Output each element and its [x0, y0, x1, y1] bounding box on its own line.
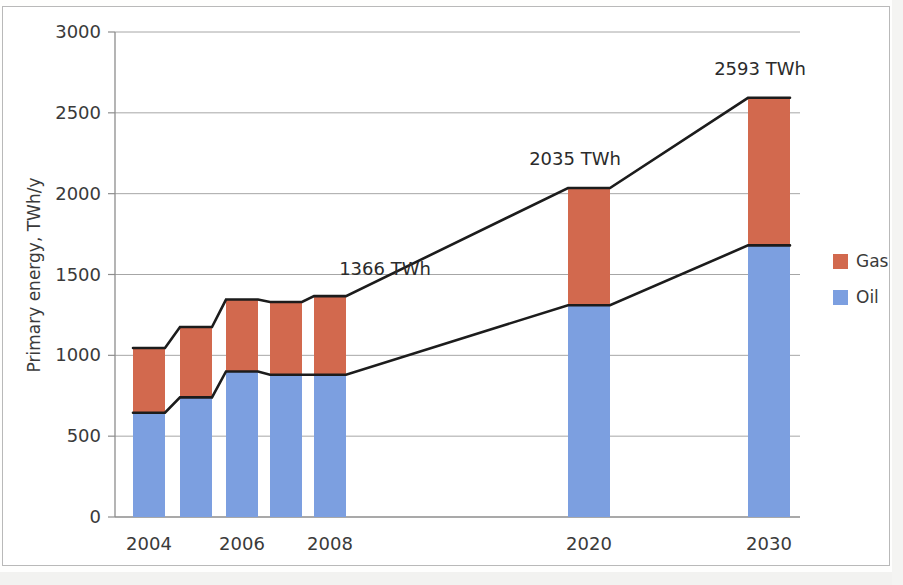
y-axis-tick-labels: 050010001500200025003000 [55, 21, 101, 527]
bar-segment-oil [748, 245, 790, 517]
chart-legend: GasOil [833, 251, 889, 307]
bar-segment-gas [568, 188, 610, 305]
legend-swatch-gas [833, 254, 848, 269]
bar-2020 [568, 188, 610, 517]
bar-segment-gas [748, 98, 790, 246]
bar-segment-oil [226, 372, 258, 518]
bar-2007 [270, 302, 302, 517]
y-tick-label: 2500 [55, 102, 101, 123]
y-tick-label: 1000 [55, 344, 101, 365]
legend-label-gas: Gas [856, 251, 889, 271]
data-label-2008: 1366 TWh [339, 258, 431, 279]
y-tick-label: 3000 [55, 21, 101, 42]
bar-2008 [314, 296, 346, 517]
x-label-2020: 2020 [566, 533, 612, 554]
y-tick-label: 0 [90, 506, 101, 527]
legend-label-oil: Oil [856, 287, 879, 307]
bar-segment-gas [180, 327, 212, 397]
gridlines [115, 32, 800, 436]
bar-series-group [133, 98, 790, 517]
y-tick-label: 1500 [55, 264, 101, 285]
y-axis-ticks [108, 32, 115, 517]
x-label-2008: 2008 [307, 533, 353, 554]
y-tick-label: 2000 [55, 183, 101, 204]
bar-segment-oil [314, 375, 346, 517]
bar-2004 [133, 348, 165, 517]
bar-segment-oil [270, 375, 302, 517]
x-label-2006: 2006 [219, 533, 265, 554]
bar-segment-gas [314, 296, 346, 375]
bar-segment-oil [133, 413, 165, 517]
bar-2006 [226, 300, 258, 517]
x-label-2030: 2030 [746, 533, 792, 554]
bar-segment-gas [270, 302, 302, 375]
x-axis-category-labels: 20042006200820202030 [126, 533, 792, 554]
bar-segment-oil [180, 397, 212, 517]
bar-segment-oil [568, 305, 610, 517]
bar-2005 [180, 327, 212, 517]
bar-2030 [748, 98, 790, 517]
scanned-page: 050010001500200025003000 1366 TWh2035 TW… [0, 0, 903, 585]
bar-segment-gas [226, 300, 258, 372]
data-label-2030: 2593 TWh [714, 58, 806, 79]
legend-swatch-oil [833, 290, 848, 305]
y-tick-label: 500 [67, 425, 101, 446]
bar-segment-gas [133, 348, 165, 413]
stacked-bar-chart: 050010001500200025003000 1366 TWh2035 TW… [0, 0, 903, 585]
data-label-2020: 2035 TWh [529, 148, 621, 169]
x-label-2004: 2004 [126, 533, 172, 554]
y-axis-title: Primary energy, TWh/y [24, 178, 44, 373]
